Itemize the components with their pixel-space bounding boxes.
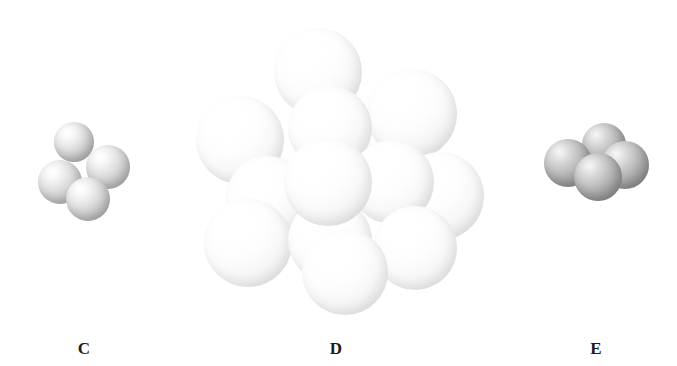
sphere-c-bottom-front xyxy=(66,177,110,221)
sphere-d-bottom-front xyxy=(302,229,388,315)
figure-canvas: C D E xyxy=(0,0,677,366)
sphere-d-lower-left xyxy=(204,199,292,287)
sphere-d-center-front xyxy=(284,138,372,226)
panel-label-c: C xyxy=(64,340,104,357)
panel-label-e: E xyxy=(576,340,616,357)
sphere-e-center-front xyxy=(574,153,622,201)
panel-label-d: D xyxy=(316,340,356,357)
